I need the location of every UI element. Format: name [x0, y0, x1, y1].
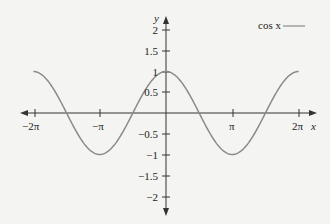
- x-axis-right-arrow-icon: [309, 110, 317, 116]
- y-tick-label: 0.5: [144, 86, 158, 98]
- y-tick-label: −0.5: [138, 128, 158, 140]
- x-tick-label: −π: [92, 120, 104, 132]
- y-axis: [162, 16, 170, 216]
- y-axis-label: y: [153, 12, 159, 24]
- x-axis-left-arrow-icon: [20, 110, 28, 116]
- x-axis-label: x: [310, 120, 316, 132]
- x-tick-label: −2π: [22, 120, 40, 132]
- chart-canvas: −2π −π π 2π x y 2 1.5 1 0.5 −0.5 −1 −1.5…: [0, 0, 330, 224]
- legend-label: cos x: [258, 19, 281, 31]
- y-tick-label: −1: [146, 149, 158, 161]
- y-tick-label: 2: [153, 24, 159, 36]
- x-tick-label: 2π: [292, 120, 304, 132]
- y-axis-up-arrow-icon: [163, 16, 169, 24]
- y-tick-label: 1: [153, 66, 159, 78]
- y-tick-label: 1.5: [144, 45, 158, 57]
- y-axis-down-arrow-icon: [163, 208, 169, 216]
- y-tick-label: −1.5: [138, 170, 158, 182]
- y-tick-label: −2: [146, 191, 158, 203]
- x-tick-label: π: [229, 120, 235, 132]
- legend: cos x: [258, 19, 305, 31]
